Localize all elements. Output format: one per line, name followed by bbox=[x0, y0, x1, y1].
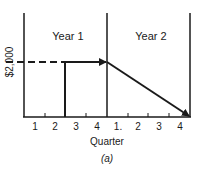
y-axis-label: $2,000 bbox=[4, 47, 15, 78]
depreciation-arrow bbox=[107, 62, 189, 116]
tick-label: 4 bbox=[94, 122, 100, 132]
x-axis-label: Quarter bbox=[90, 136, 124, 147]
tick-label: 1. bbox=[114, 122, 122, 132]
tick-label: 2 bbox=[52, 122, 58, 132]
tick-label: 3 bbox=[156, 122, 162, 132]
tick-label: 3 bbox=[73, 122, 79, 132]
tick-label: 2 bbox=[135, 122, 141, 132]
year2-label: Year 2 bbox=[135, 31, 166, 42]
tick-label: 1 bbox=[32, 122, 38, 132]
figure-caption: (a) bbox=[101, 153, 113, 164]
tick-label: 4 bbox=[177, 122, 183, 132]
year1-label: Year 1 bbox=[52, 31, 83, 42]
